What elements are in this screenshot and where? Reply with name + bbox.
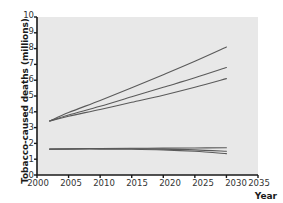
plot-area	[0, 0, 283, 203]
chart-figure: Tobacco-caused deaths (millions) Year 0 …	[0, 0, 283, 203]
